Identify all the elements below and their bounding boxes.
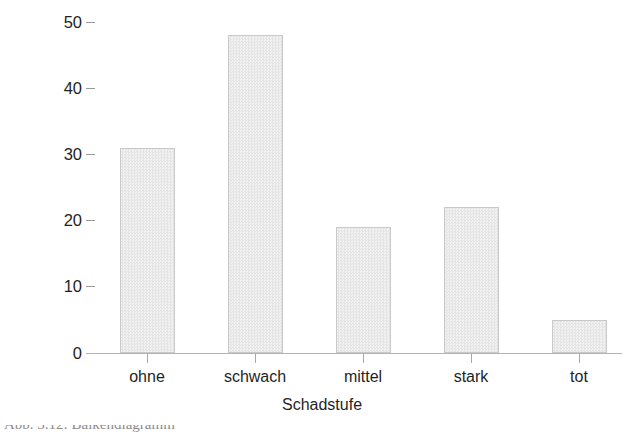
bar-mittel — [336, 227, 391, 353]
bar-tot — [552, 320, 607, 353]
x-axis-line — [86, 353, 622, 354]
y-tick-mark-30 — [86, 154, 95, 155]
x-tick-label-tot: tot — [519, 366, 639, 388]
y-tick-mark-20 — [86, 220, 95, 221]
x-tick-mark-schwach — [255, 354, 256, 363]
bar-ohne — [120, 148, 175, 353]
figure-caption: Abb. 3.12: Balkendiagramm — [4, 425, 175, 433]
x-tick-label-mittel: mittel — [303, 366, 423, 388]
y-tick-label-20: 20 — [36, 211, 82, 229]
y-tick-mark-40 — [86, 88, 95, 89]
x-tick-mark-ohne — [147, 354, 148, 363]
y-tick-mark-10 — [86, 286, 95, 287]
y-tick-mark-50 — [86, 22, 95, 23]
x-tick-mark-tot — [579, 354, 580, 363]
y-tick-label-50: 50 — [36, 13, 82, 31]
y-tick-label-0: 0 — [36, 344, 82, 362]
x-tick-label-stark: stark — [411, 366, 531, 388]
x-tick-mark-stark — [471, 354, 472, 363]
y-tick-label-30: 30 — [36, 145, 82, 163]
bar-schwach — [228, 35, 283, 353]
x-tick-mark-mittel — [363, 354, 364, 363]
bar-stark — [444, 207, 499, 353]
y-tick-label-40: 40 — [36, 79, 82, 97]
x-axis-title: Schadstufe — [0, 396, 644, 414]
bar-chart-figure: absolute Häufigkeit 50 40 30 20 10 0 ohn… — [0, 0, 644, 435]
y-tick-label-10: 10 — [36, 277, 82, 295]
figure-caption-strip: Abb. 3.12: Balkendiagramm — [0, 425, 644, 435]
x-tick-label-ohne: ohne — [87, 366, 207, 388]
x-tick-label-schwach: schwach — [195, 366, 315, 388]
